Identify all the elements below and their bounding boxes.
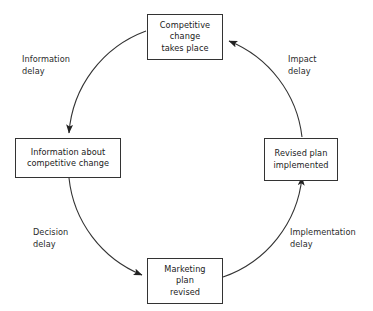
edge-label-implementation-delay: Implementation delay: [290, 227, 356, 250]
cycle-diagram: Competitive change takes place Revised p…: [0, 0, 373, 311]
node-marketing-plan-line-3: revised: [170, 287, 200, 298]
edge-label-impact-delay-line-1: Impact: [288, 54, 317, 66]
edge-label-decision-delay-line-1: Decision: [33, 227, 68, 239]
edge-label-implementation-delay-line-2: delay: [290, 239, 356, 251]
edge-label-decision-delay-line-2: delay: [33, 239, 68, 251]
edge-label-decision-delay: Decision delay: [33, 227, 68, 250]
node-marketing-plan: Marketing plan revised: [147, 258, 223, 304]
node-revised-plan-line-1: Revised plan: [275, 148, 328, 159]
node-marketing-plan-line-1: Marketing: [164, 264, 205, 275]
arc-information-delay: [69, 31, 146, 133]
node-revised-plan-line-2: implemented: [274, 160, 329, 171]
edge-label-implementation-delay-line-1: Implementation: [290, 227, 356, 239]
node-competitive-change-line-3: takes place: [161, 43, 208, 54]
node-revised-plan: Revised plan implemented: [264, 138, 338, 181]
node-information-about-line-1: Information about: [31, 147, 105, 158]
node-competitive-change-line-1: Competitive: [160, 20, 210, 31]
node-competitive-change: Competitive change takes place: [147, 14, 223, 60]
edge-label-impact-delay-line-2: delay: [288, 66, 317, 78]
edge-label-information-delay: Information delay: [22, 54, 70, 77]
arc-decision-delay: [69, 178, 142, 275]
node-information-about-line-2: competitive change: [27, 158, 109, 169]
edge-label-information-delay-line-2: delay: [22, 66, 70, 78]
node-competitive-change-line-2: change: [170, 31, 200, 42]
edge-label-information-delay-line-1: Information: [22, 54, 70, 66]
node-information-about: Information about competitive change: [15, 138, 121, 178]
edge-label-impact-delay: Impact delay: [288, 54, 317, 77]
node-marketing-plan-line-2: plan: [176, 275, 194, 286]
